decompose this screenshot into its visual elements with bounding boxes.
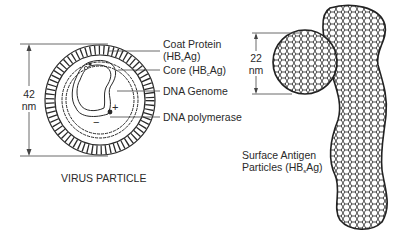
surface-antigen-text: Surface Antigen [242,149,323,161]
arrow-up-icon [27,44,32,51]
dimension-value: 42 [15,88,43,100]
dimension-value: 22 [244,52,268,64]
filamentous-particle [323,5,387,229]
surface-antigen-particles [252,5,387,229]
arrow-down-icon [254,88,258,94]
surface-antigen-dimension-label: 22 nm [244,52,268,76]
coat-inner-edge [55,55,145,145]
dimension-unit: nm [15,100,43,112]
dna-genome-label: DNA Genome [163,85,228,97]
core-ring-inner [66,66,134,134]
virus-dimension-label: 42 nm [15,88,43,112]
dna-polymerase-label: DNA polymerase [163,111,242,123]
dimension-unit: nm [244,64,268,76]
surface-antigen-subtext: Particles (HBsAg) [242,161,323,177]
core-ring-outer [62,62,138,138]
surface-antigen-label: Surface Antigen Particles (HBsAg) [242,149,323,177]
core-label: Core (HBcAg) [163,64,226,80]
coat-protein-label: Coat Protein (HBsAg) [163,38,221,66]
coat-protein-text: Coat Protein [163,38,221,50]
plus-strand-sign: + [112,101,118,113]
virus-particle-title: VIRUS PARTICLE [61,172,146,184]
arrow-up-icon [254,33,258,39]
spherical-particle [273,30,337,94]
minus-strand-sign: − [93,116,99,128]
genome-open-dot [84,66,87,69]
dna-genome-inner-strand [77,65,111,111]
genome-dot [88,62,91,65]
arrow-down-icon [27,149,32,156]
